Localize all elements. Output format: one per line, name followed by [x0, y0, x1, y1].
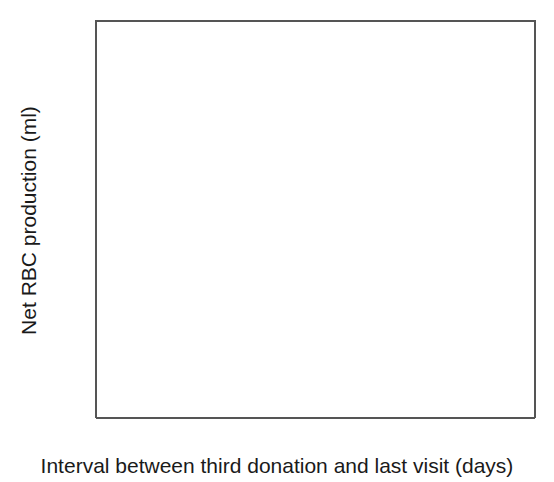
x-axis-title: Interval between third donation and last…: [0, 455, 554, 476]
axis-box: [96, 21, 535, 418]
plot-canvas: [0, 0, 554, 482]
plot-frame: [96, 21, 535, 418]
scatter-plot-figure: Net RBC production (ml) Interval between…: [0, 0, 554, 482]
y-axis-title: Net RBC production (ml): [18, 71, 39, 371]
